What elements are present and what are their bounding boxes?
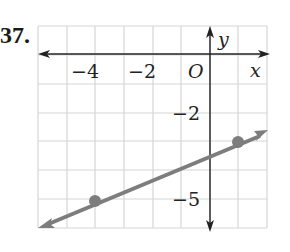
y-tick-label-minus-5: −5 (172, 188, 200, 210)
x-tick-label-minus-4: −4 (71, 60, 99, 82)
y-tick-label-minus-2: −2 (172, 102, 200, 124)
coordinate-graph: y x O −4 −2 −2 −5 (0, 0, 290, 252)
point-1-minus3 (232, 136, 244, 148)
origin-label: O (188, 60, 204, 82)
y-axis-label: y (217, 28, 229, 50)
x-axis-label: x (250, 59, 261, 81)
x-tick-label-minus-2: −2 (128, 60, 156, 82)
point-minus4-minus5 (89, 195, 101, 207)
grid (38, 26, 267, 228)
